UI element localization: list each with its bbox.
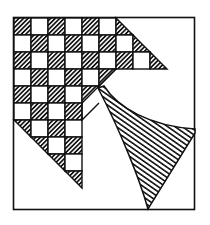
quilt-block-illustration	[0, 0, 210, 225]
